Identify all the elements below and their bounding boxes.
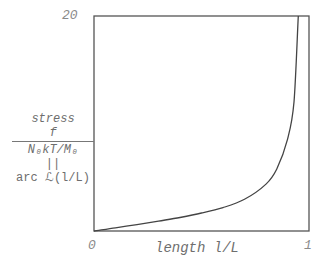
y-axis-label: stress f N₀kT/M₀ || arc ℒ(l/L) <box>12 112 94 185</box>
x-tick-0: 0 <box>88 238 96 253</box>
y-label-stress: stress <box>12 112 94 126</box>
y-tick-20: 20 <box>62 8 78 23</box>
y-label-numerator: f <box>12 126 94 140</box>
x-tick-1: 1 <box>304 238 312 253</box>
y-label-denominator: N₀kT/M₀ <box>12 143 94 157</box>
y-label-arc-langevin: arc ℒ(l/L) <box>12 171 94 185</box>
y-label-equals: || <box>12 157 94 171</box>
inverse-langevin-curve <box>94 16 298 231</box>
plot-frame <box>94 16 309 231</box>
x-axis-label: length l/L <box>155 240 239 256</box>
fraction-bar <box>12 141 94 142</box>
